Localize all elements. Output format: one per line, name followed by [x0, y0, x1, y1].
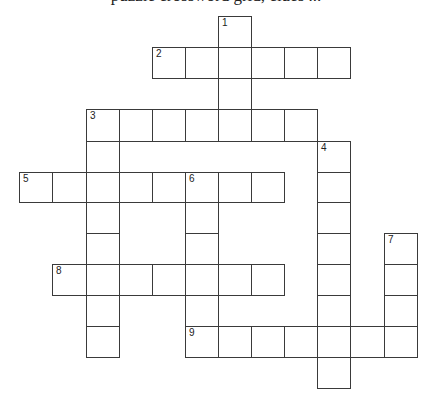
clue-number: 1: [222, 18, 228, 28]
crossword-cell[interactable]: [384, 295, 418, 327]
crossword-cell[interactable]: [185, 109, 219, 142]
crossword-cell[interactable]: [152, 264, 186, 296]
crossword-cell[interactable]: [218, 47, 252, 79]
crossword-cell[interactable]: [251, 47, 285, 79]
crossword-cell[interactable]: [52, 172, 87, 203]
clue-number: 6: [189, 174, 195, 184]
crossword-cell[interactable]: [350, 326, 385, 358]
crossword-cell[interactable]: [185, 233, 219, 265]
crossword-cell[interactable]: [317, 202, 351, 234]
crossword-grid: 123456978: [0, 0, 432, 406]
crossword-cell[interactable]: 1: [218, 16, 252, 48]
crossword-cell[interactable]: [251, 326, 285, 358]
crossword-cell[interactable]: [251, 172, 285, 203]
crossword-cell[interactable]: [119, 264, 153, 296]
crossword-cell[interactable]: 7: [384, 233, 418, 265]
crossword-cell[interactable]: [152, 109, 186, 142]
crossword-cell[interactable]: [86, 264, 120, 296]
crossword-cell[interactable]: 2: [152, 47, 186, 79]
clue-number: 9: [189, 328, 195, 338]
clue-number: 2: [156, 49, 162, 59]
clue-number: 5: [23, 174, 29, 184]
crossword-cell[interactable]: [86, 202, 120, 234]
crossword-cell[interactable]: [185, 202, 219, 234]
clue-number: 3: [90, 111, 96, 121]
crossword-cell[interactable]: [218, 78, 252, 110]
crossword-cell[interactable]: [152, 172, 186, 203]
crossword-cell[interactable]: [86, 141, 120, 173]
crossword-cell[interactable]: [218, 109, 252, 142]
crossword-cell[interactable]: [86, 172, 120, 203]
clue-number: 8: [56, 266, 62, 276]
crossword-cell[interactable]: [317, 295, 351, 327]
crossword-cell[interactable]: [218, 326, 252, 358]
crossword-cell[interactable]: [384, 264, 418, 296]
crossword-cell[interactable]: 4: [317, 141, 351, 173]
crossword-cell[interactable]: [119, 172, 153, 203]
clue-number: 7: [388, 235, 394, 245]
crossword-cell[interactable]: [317, 326, 351, 358]
crossword-cell[interactable]: [317, 357, 351, 389]
crossword-cell[interactable]: [317, 172, 351, 203]
crossword-cell[interactable]: [86, 233, 120, 265]
crossword-cell[interactable]: 5: [19, 172, 53, 203]
crossword-cell[interactable]: [317, 47, 351, 79]
crossword-cell[interactable]: [317, 233, 351, 265]
crossword-cell[interactable]: [218, 264, 252, 296]
crossword-cell[interactable]: [185, 264, 219, 296]
crossword-cell[interactable]: [284, 109, 318, 142]
crossword-cell[interactable]: [284, 326, 318, 358]
crossword-cell[interactable]: [251, 264, 285, 296]
crossword-cell[interactable]: [86, 326, 120, 358]
crossword-cell[interactable]: [119, 109, 153, 142]
crossword-cell[interactable]: [218, 172, 252, 203]
crossword-cell[interactable]: 6: [185, 172, 219, 203]
crossword-cell[interactable]: [185, 47, 219, 79]
crossword-cell[interactable]: [317, 264, 351, 296]
crossword-cell[interactable]: 8: [52, 264, 87, 296]
crossword-cell[interactable]: [86, 295, 120, 327]
crossword-cell[interactable]: [384, 326, 418, 358]
clue-number: 4: [321, 143, 327, 153]
crossword-cell[interactable]: 3: [86, 109, 120, 142]
crossword-cell[interactable]: [251, 109, 285, 142]
crossword-cell[interactable]: [185, 295, 219, 327]
crossword-cell[interactable]: 9: [185, 326, 219, 358]
crossword-cell[interactable]: [284, 47, 318, 79]
